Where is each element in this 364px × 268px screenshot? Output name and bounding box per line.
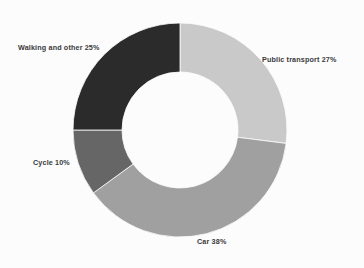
slice-label-walking-and-other: Walking and other 25%: [18, 44, 100, 51]
donut-slice-walking-and-other: [73, 23, 180, 130]
donut-slices-group: [73, 23, 287, 237]
slice-label-car: Car 38%: [197, 238, 226, 245]
donut-slice-public-transport: [180, 23, 287, 143]
donut-chart: Public transport 27% Car 38% Cycle 10% W…: [0, 0, 364, 268]
donut-chart-svg: [0, 0, 364, 268]
slice-label-public-transport: Public transport 27%: [262, 56, 337, 63]
slice-label-cycle: Cycle 10%: [33, 159, 70, 166]
